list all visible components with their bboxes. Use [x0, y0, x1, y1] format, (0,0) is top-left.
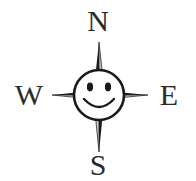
- right-eye: [105, 83, 111, 92]
- cardinal-label-north: N: [0, 6, 196, 36]
- face-circle: [74, 70, 124, 120]
- cardinal-label-south: S: [0, 150, 196, 180]
- compass-rose-figure: N W E S: [0, 0, 196, 181]
- left-eye: [87, 83, 93, 92]
- cardinal-label-west: W: [12, 80, 46, 110]
- cardinal-label-east: E: [152, 80, 186, 110]
